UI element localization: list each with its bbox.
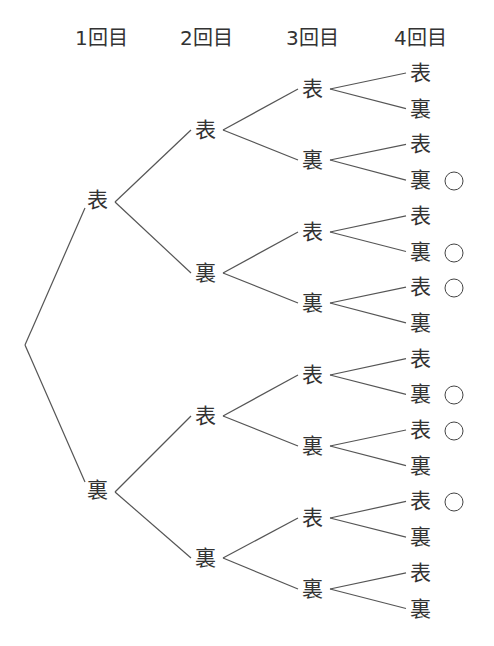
header-round-4: 4回目 [394, 22, 447, 51]
circle-mark-icon [445, 279, 464, 298]
node-level4-heads: 表 [410, 562, 431, 583]
branch-line [330, 359, 406, 375]
node-level2-heads: 表 [195, 406, 216, 427]
branch-line [223, 558, 298, 589]
branch-line [223, 416, 298, 446]
node-level4-tails: 裏 [410, 598, 431, 619]
branch-line [330, 501, 406, 518]
node-level4-tails: 裏 [410, 241, 431, 262]
branch-line [330, 73, 406, 89]
node-level4-tails: 裏 [410, 455, 431, 476]
branch-line [115, 492, 191, 558]
branch-line [223, 232, 298, 273]
node-level4-heads: 表 [410, 277, 431, 298]
branch-line [330, 518, 406, 537]
branch-line [223, 130, 298, 160]
branch-line [223, 89, 298, 130]
node-level3-heads: 表 [302, 222, 323, 243]
node-level4-heads: 表 [410, 420, 431, 441]
branch-line [330, 589, 406, 609]
node-level3-heads: 表 [302, 508, 323, 529]
node-level1-heads: 表 [87, 190, 108, 211]
branch-line [330, 160, 406, 180]
node-level4-heads: 表 [410, 205, 431, 226]
header-round-1: 1回目 [75, 22, 128, 51]
node-level4-heads: 表 [410, 63, 431, 84]
node-level4-tails: 裏 [410, 98, 431, 119]
header-round-3: 3回目 [286, 22, 339, 51]
branch-line [25, 345, 85, 482]
branch-line [115, 202, 191, 273]
header-round-2: 2回目 [180, 22, 233, 51]
node-level3-tails: 裏 [302, 436, 323, 457]
circle-mark-icon [445, 422, 464, 441]
node-level2-heads: 表 [195, 120, 216, 141]
branch-line [330, 144, 406, 160]
branch-line [25, 208, 85, 345]
circle-mark-icon [445, 386, 464, 405]
branch-line [115, 130, 191, 202]
branch-line [330, 573, 406, 589]
node-level2-tails: 裏 [195, 548, 216, 569]
node-level3-tails: 裏 [302, 579, 323, 600]
node-level1-tails: 裏 [87, 480, 108, 501]
branch-line [330, 287, 406, 303]
circle-mark-icon [445, 243, 464, 262]
branch-line [115, 416, 191, 492]
node-level4-heads: 表 [410, 134, 431, 155]
node-level4-tails: 裏 [410, 384, 431, 405]
node-level4-tails: 裏 [410, 170, 431, 191]
branch-line [330, 216, 406, 232]
branch-line [330, 303, 406, 323]
node-level4-tails: 裏 [410, 527, 431, 548]
branch-line [330, 430, 406, 446]
branch-line [223, 518, 298, 558]
node-level3-heads: 表 [302, 365, 323, 386]
branch-line [330, 446, 406, 466]
node-level4-heads: 表 [410, 348, 431, 369]
node-level3-heads: 表 [302, 79, 323, 100]
branch-line [330, 232, 406, 252]
node-level4-heads: 表 [410, 491, 431, 512]
node-level2-tails: 裏 [195, 263, 216, 284]
node-level3-tails: 裏 [302, 150, 323, 171]
circle-mark-icon [445, 493, 464, 512]
node-level3-tails: 裏 [302, 293, 323, 314]
circle-mark-icon [445, 172, 464, 191]
branch-line [223, 273, 298, 303]
branch-line [330, 375, 406, 394]
branch-line [223, 375, 298, 416]
node-level4-tails: 裏 [410, 312, 431, 333]
branch-line [330, 89, 406, 109]
